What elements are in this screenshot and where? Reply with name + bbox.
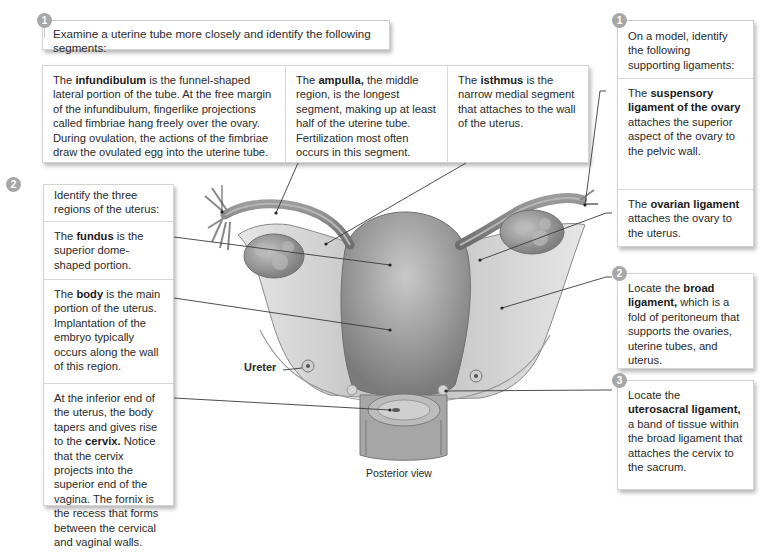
ureter-label: Ureter: [244, 361, 276, 373]
uterus-body: [341, 212, 470, 396]
ovary-left: [244, 234, 304, 278]
view-caption: Posterior view: [366, 467, 432, 479]
badge-connector: [626, 20, 754, 21]
step-badge-ligaments-1: 1: [612, 13, 627, 28]
step-badge-ligaments-2: 2: [612, 266, 627, 281]
step-badge-2: 2: [6, 177, 21, 192]
ovary-right: [500, 210, 564, 254]
badge-connector: [50, 20, 390, 21]
step-badge-ligaments-3: 3: [612, 373, 627, 388]
step-badge-1: 1: [37, 13, 52, 28]
